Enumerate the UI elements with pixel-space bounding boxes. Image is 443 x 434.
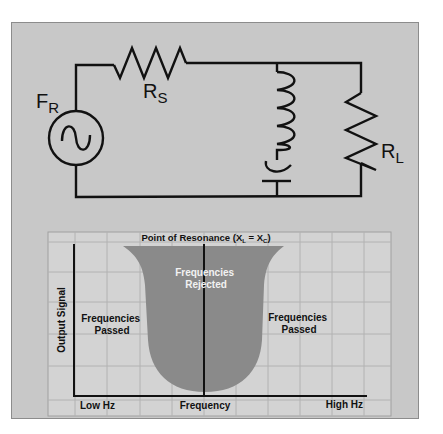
frequency-response-chart: Point of Resonance (XL = XC) Frequencies…: [48, 232, 391, 416]
x-axis-title: Frequency: [180, 400, 231, 411]
wire-top-right: [186, 63, 361, 93]
y-axis-label: Output Signal: [56, 287, 67, 353]
chart-title: Point of Resonance (XL = XC): [141, 232, 270, 244]
load-resistor-label: RL: [381, 140, 404, 166]
circuit-schematic: [49, 48, 376, 197]
wire-top-left: [76, 65, 114, 111]
series-resistor-label: RS: [143, 80, 167, 106]
x-axis-low-label: Low Hz: [80, 400, 115, 411]
inductor-icon: [277, 72, 294, 160]
source-label: FR: [36, 90, 59, 116]
series-resistor-icon: [114, 48, 186, 78]
wire-bottom: [76, 163, 361, 197]
diagram-canvas: FR RS RL: [0, 0, 443, 434]
capacitor-curved-plate-icon: [266, 161, 291, 172]
x-axis-high-label: High Hz: [326, 399, 363, 410]
load-resistor-icon: [346, 93, 376, 170]
sine-wave-icon: [62, 126, 90, 149]
